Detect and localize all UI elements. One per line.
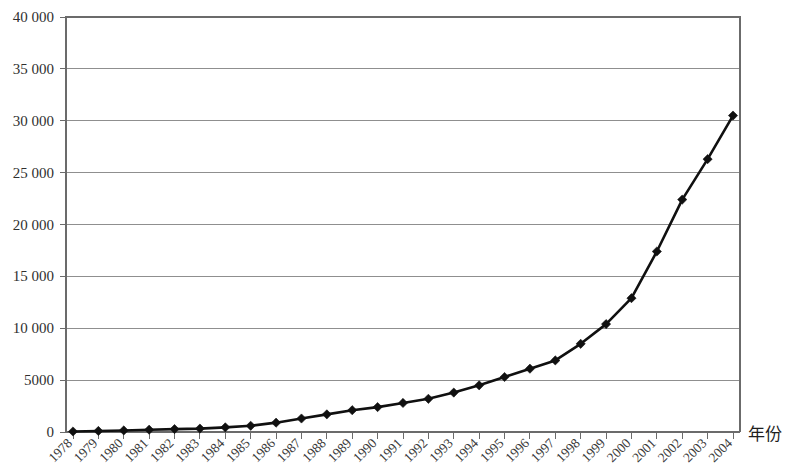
data-point-marker <box>424 394 433 403</box>
data-point-marker <box>94 426 103 435</box>
y-axis-tick-label: 30 000 <box>13 113 54 129</box>
x-axis-tick-label: 1983 <box>172 435 202 465</box>
x-axis-tick-label: 1990 <box>350 435 380 465</box>
data-point-marker <box>449 388 458 397</box>
x-axis-tick-label: 1998 <box>553 435 583 465</box>
data-point-marker <box>322 410 331 419</box>
data-point-marker <box>246 421 255 430</box>
chart-container: 0500010 00015 00020 00025 00030 00035 00… <box>0 0 786 471</box>
x-axis-tick-label: 1982 <box>147 436 177 466</box>
x-axis-tick-label: 1989 <box>325 435 355 465</box>
y-axis-tick-labels: 0500010 00015 00020 00025 00030 00035 00… <box>13 9 54 440</box>
x-axis-tick-label: 1999 <box>578 435 608 465</box>
x-axis-tick-label: 1987 <box>274 435 304 465</box>
x-axis-title: 年份 <box>748 425 782 444</box>
data-point-marker <box>271 418 280 427</box>
x-axis-tick-label: 1984 <box>198 435 228 465</box>
x-axis-tick-label: 2001 <box>629 436 659 466</box>
x-axis-tick-label: 2003 <box>680 435 710 465</box>
data-point-marker <box>373 403 382 412</box>
x-axis-tick-labels: 1978197919801981198219831984198519861987… <box>45 435 735 465</box>
y-axis-tick-label: 25 000 <box>13 165 54 181</box>
line-chart: 0500010 00015 00020 00025 00030 00035 00… <box>0 0 786 471</box>
y-axis-tick-label: 20 000 <box>13 217 54 233</box>
x-axis-tick-label: 1981 <box>122 436 152 466</box>
x-axis-tick-label: 1996 <box>502 435 532 465</box>
x-axis-tick-label: 1988 <box>299 435 329 465</box>
x-axis-tick-label: 1985 <box>223 435 253 465</box>
x-axis-tick-label: 1997 <box>528 435 558 465</box>
data-point-marker <box>475 381 484 390</box>
y-axis-tick-label: 40 000 <box>13 9 54 25</box>
x-axis-tick-label: 1991 <box>375 436 405 466</box>
y-axis-tick-label: 35 000 <box>13 61 54 77</box>
series-line <box>73 116 733 432</box>
y-axis-tick-label: 0 <box>47 424 55 440</box>
data-point-marker <box>398 398 407 407</box>
data-point-marker <box>145 425 154 434</box>
data-point-marker <box>297 414 306 423</box>
x-axis-tick-label: 2004 <box>705 435 735 465</box>
x-axis-tick-label: 1995 <box>477 435 507 465</box>
x-axis-tick-label: 1979 <box>71 435 101 465</box>
data-point-marker <box>348 406 357 415</box>
data-point-marker <box>68 427 77 436</box>
x-axis-tick-label: 1994 <box>452 435 482 465</box>
x-axis-tick-label: 1980 <box>96 435 126 465</box>
data-point-marker <box>119 426 128 435</box>
y-axis-tick-label: 15 000 <box>13 268 54 284</box>
x-axis-tick-label: 1986 <box>248 435 278 465</box>
gridlines <box>60 17 740 432</box>
y-axis-tick-label: 10 000 <box>13 320 54 336</box>
y-axis-tick-label: 5000 <box>24 372 54 388</box>
data-point-marker <box>221 423 230 432</box>
data-point-marker <box>525 364 534 373</box>
x-axis-tick-label: 1992 <box>401 436 431 466</box>
x-axis-tick-label: 1993 <box>426 435 456 465</box>
data-point-markers <box>68 111 737 436</box>
data-series <box>73 116 733 432</box>
axis-tick-marks <box>73 432 733 439</box>
x-axis-tick-label: 2002 <box>655 436 685 466</box>
x-axis-tick-label: 2000 <box>604 435 634 465</box>
